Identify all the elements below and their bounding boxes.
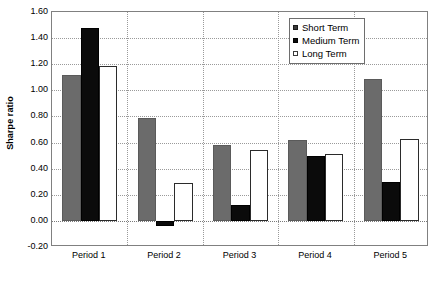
y-tick-label: 0.40: [14, 163, 48, 173]
x-tick-label: Period 1: [72, 250, 106, 260]
gridline-horizontal: [52, 38, 427, 39]
x-axis-tick-labels: Period 1Period 2Period 3Period 4Period 5: [51, 250, 428, 270]
bar-long-5: [400, 139, 418, 221]
y-tick-label: -0.20: [14, 241, 48, 251]
y-tick-label: 1.00: [14, 84, 48, 94]
zero-baseline: [52, 221, 427, 222]
y-tick-label: 1.20: [14, 58, 48, 68]
legend-label: Medium Term: [302, 34, 359, 47]
y-tick-label: 0.60: [14, 137, 48, 147]
legend-item-medium[interactable]: Medium Term: [293, 34, 359, 47]
x-tick-label: Period 5: [374, 250, 408, 260]
gridline-vertical: [127, 12, 128, 245]
y-tick-label: 1.40: [14, 32, 48, 42]
gridline-vertical: [203, 12, 204, 245]
bar-long-1: [99, 66, 117, 221]
legend-item-long[interactable]: Long Term: [293, 47, 359, 60]
legend-swatch-medium-icon: [293, 38, 298, 43]
y-tick-label: 0.00: [14, 215, 48, 225]
chart-legend: Short TermMedium TermLong Term: [289, 18, 365, 64]
bar-medium-4: [307, 156, 325, 221]
x-tick-label: Period 4: [298, 250, 332, 260]
bar-long-2: [174, 183, 192, 221]
bar-short-5: [364, 79, 382, 221]
x-tick-label: Period 3: [223, 250, 257, 260]
sharpe-ratio-bar-chart: Sharpe ratio 1.601.401.201.000.800.600.4…: [0, 0, 435, 282]
y-tick-label: 1.60: [14, 6, 48, 16]
bar-short-3: [213, 145, 231, 221]
bar-long-3: [250, 150, 268, 221]
bar-short-2: [138, 118, 156, 221]
bar-medium-5: [382, 182, 400, 221]
gridline-vertical: [278, 12, 279, 245]
bar-short-4: [288, 140, 306, 221]
y-axis-tick-labels: 1.601.401.201.000.800.600.400.200.00-0.2…: [14, 0, 48, 246]
legend-item-short[interactable]: Short Term: [293, 21, 359, 34]
legend-label: Short Term: [302, 21, 348, 34]
bar-medium-2: [156, 221, 174, 226]
bar-medium-1: [81, 28, 99, 221]
bar-short-1: [62, 75, 80, 221]
legend-label: Long Term: [302, 47, 347, 60]
bar-long-4: [325, 154, 343, 221]
bar-medium-3: [231, 205, 249, 221]
y-tick-label: 0.20: [14, 189, 48, 199]
plot-area: [51, 11, 428, 246]
legend-swatch-short-icon: [293, 25, 298, 30]
legend-swatch-long-icon: [293, 51, 298, 56]
y-tick-label: 0.80: [14, 110, 48, 120]
x-tick-label: Period 2: [147, 250, 181, 260]
